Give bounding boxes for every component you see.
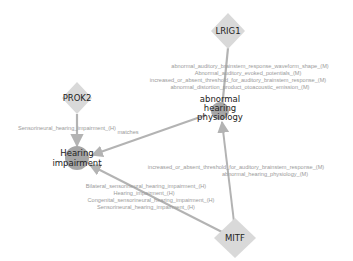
edge-labels-ahp-hi: matches (117, 129, 138, 135)
network-diagram: abnormal_auditory_brainstem_response_wav… (0, 0, 353, 261)
edge-label: abnormal_distortion_product_otoacoustic_… (171, 84, 310, 90)
edge-labels-prok2-hi: Sensorineural_hearing_impairment_(H) (18, 125, 116, 131)
edge-labels-lrig1-ahp: abnormal_auditory_brainstem_response_wav… (150, 63, 329, 90)
node-label: MITF (225, 233, 245, 243)
edge-ahp-hi[interactable] (92, 115, 206, 155)
edge-label: abnormal_hearing_physiology_(M) (222, 171, 308, 177)
edge-label: Hearing_impairment_(H) (113, 190, 174, 196)
node-label: impairment (52, 158, 102, 168)
edge-label: Abnormal_auditory_evoked_potentials_(M) (195, 70, 302, 76)
edge-label: Sensorineural_hearing_impairment_(H) (18, 125, 116, 131)
node-mitf[interactable]: MITF (214, 218, 256, 258)
node-prok2[interactable]: PROK2 (62, 82, 92, 114)
edge-label: increased_or_absent_threshold_for_audito… (150, 77, 326, 83)
node-abnormal-hearing-physiology[interactable]: abnormal hearing physiology (197, 94, 243, 122)
edge-labels-mitf-ahp: increased_or_absent_threshold_for_audito… (148, 164, 324, 177)
edge-label: matches (117, 129, 138, 135)
node-label: LRIG1 (215, 26, 240, 36)
edge-label: abnormal_auditory_brainstem_response_wav… (171, 63, 328, 69)
edge-label: increased_or_absent_threshold_for_audito… (148, 164, 324, 170)
edge-label: Congenital_sensorineural_hearing_impairm… (88, 197, 215, 203)
node-label: PROK2 (63, 93, 92, 103)
node-label: physiology (197, 112, 243, 122)
edge-label: Bilateral_sensorineural_hearing_impairme… (86, 183, 206, 189)
edge-labels-mitf-hi: Bilateral_sensorineural_hearing_impairme… (86, 183, 215, 210)
edge-label: Sensorineural_hearing_impairment_(H) (97, 204, 195, 210)
node-hearing-impairment[interactable]: Hearing impairment (52, 146, 102, 170)
node-label: Hearing (60, 148, 93, 158)
node-lrig1[interactable]: LRIG1 (211, 13, 245, 49)
